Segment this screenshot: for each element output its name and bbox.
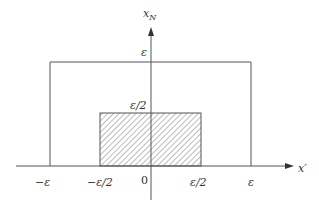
y-axis-arrow-icon (148, 27, 154, 36)
y-tick-half-epsilon: ε/2 (130, 99, 147, 112)
x-tick-neg-epsilon: −ε (35, 176, 50, 189)
x-tick-epsilon: ε (248, 176, 254, 189)
x-axis-arrow-icon (285, 163, 294, 169)
origin-label: 0 (141, 174, 148, 187)
diagram-canvas: xN x′ ε ε/2 −ε −ε/2 0 ε/2 ε (0, 0, 319, 208)
x-axis-label: x′ (298, 162, 307, 175)
x-tick-half-epsilon: ε/2 (190, 176, 207, 189)
x-tick-neg-half-epsilon: −ε/2 (87, 176, 113, 189)
y-tick-epsilon: ε (141, 46, 147, 59)
y-axis-label: xN (143, 7, 157, 22)
